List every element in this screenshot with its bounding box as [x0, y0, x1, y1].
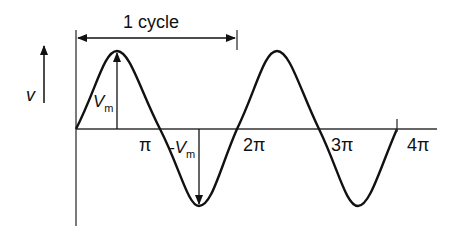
peak-label: Vm: [93, 92, 114, 114]
x-tick-3pi: 3π: [331, 135, 353, 155]
y-axis-label: v: [26, 85, 36, 105]
x-tick-4pi: 4π: [407, 135, 429, 155]
x-tick-pi: π: [139, 135, 151, 155]
trough-label: -Vm: [169, 138, 195, 160]
cycle-label: 1 cycle: [123, 12, 179, 32]
x-tick-2pi: 2π: [243, 135, 265, 155]
sine-wave-diagram: v 1 cycle Vm -Vm π 2π 3π 4π: [0, 0, 458, 235]
